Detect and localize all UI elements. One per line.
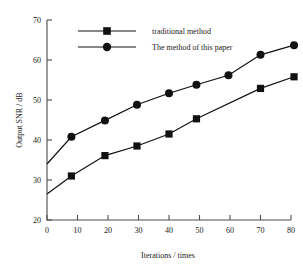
x-tick-label: 70 [257, 226, 265, 235]
y-tick-labels: 203040506070 [33, 16, 41, 225]
legend-item-this-paper-method: The method of this paper [78, 43, 233, 52]
data-point-circle [192, 81, 200, 89]
y-tick-label: 20 [33, 216, 41, 225]
y-tick-label: 70 [33, 16, 41, 25]
x-tick-label: 10 [74, 226, 82, 235]
x-axis-title: Iterations / times [141, 251, 195, 260]
y-axis-title: Output SNR / dB [15, 92, 24, 147]
chart-figure: 01020304050607080 203040506070 tradition… [0, 0, 303, 267]
data-point-circle [101, 116, 109, 124]
data-point-square [290, 73, 297, 80]
data-point-circle [290, 41, 298, 49]
data-point-square [133, 142, 140, 149]
data-point-circle [133, 101, 141, 109]
data-point-circle [224, 71, 232, 79]
data-point-square [165, 130, 172, 137]
y-tick-label: 60 [33, 56, 41, 65]
data-point-square [257, 85, 264, 92]
series-this-paper-method [47, 41, 298, 164]
data-point-circle [67, 133, 75, 141]
y-tick-label: 40 [33, 136, 41, 145]
x-tick-label: 80 [287, 226, 295, 235]
data-point-square [68, 172, 75, 179]
x-tick-label: 0 [45, 226, 49, 235]
x-tick-label: 20 [104, 226, 112, 235]
chart-legend: traditional methodThe method of this pap… [78, 27, 233, 52]
data-point-circle [257, 51, 265, 59]
series-polyline [47, 45, 294, 164]
y-tick-label: 50 [33, 96, 41, 105]
data-point-square [193, 115, 200, 122]
x-tick-labels: 01020304050607080 [45, 226, 295, 235]
data-point-circle [165, 89, 173, 97]
y-tick-label: 30 [33, 176, 41, 185]
snr-iterations-line-chart: 01020304050607080 203040506070 tradition… [0, 0, 303, 267]
x-tick-label: 30 [135, 226, 143, 235]
x-tick-label: 40 [165, 226, 173, 235]
x-tick-label: 60 [226, 226, 234, 235]
legend-label: The method of this paper [152, 43, 233, 52]
x-tick-label: 50 [196, 226, 204, 235]
legend-marker-circle [103, 43, 111, 51]
data-point-square [101, 152, 108, 159]
series-group [47, 41, 298, 194]
legend-label: traditional method [152, 27, 211, 36]
legend-marker-square [103, 27, 111, 35]
legend-item-traditional-method: traditional method [78, 27, 211, 36]
